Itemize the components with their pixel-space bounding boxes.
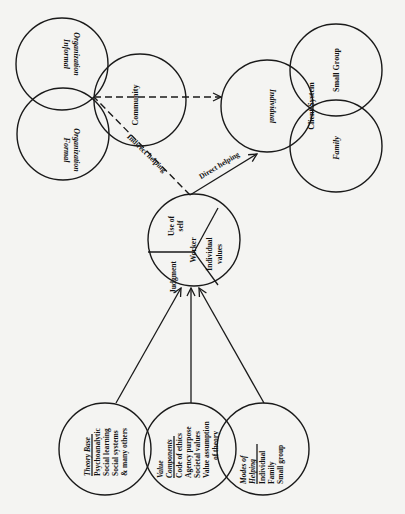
modes-item-1: Individual: [258, 451, 267, 484]
value-item-5: of theory: [211, 431, 220, 460]
individual-values-label-1: Individual: [205, 237, 214, 270]
organization-cluster: Informal Organization Formal Organizatio…: [16, 18, 186, 180]
value-item-2: Agency purpose: [184, 426, 193, 478]
family-label: Family: [332, 136, 341, 161]
modes-title-1: Modes of: [239, 454, 248, 485]
indirect-helping-label: Indirect helping: [125, 132, 168, 174]
formal-organization-circle: [17, 88, 109, 180]
community-circle: [94, 54, 186, 146]
community-label: Community: [131, 85, 140, 126]
value-item-3: Societal values: [193, 431, 202, 478]
modes-to-worker-arrow: [199, 288, 264, 403]
formal-label-1: Formal: [62, 137, 71, 164]
formal-label-2: Organization: [72, 128, 81, 172]
modes-item-3: Small group: [276, 445, 285, 484]
theory-item-2: Social learning: [102, 428, 111, 476]
theory-base-title: Theory Base: [83, 436, 92, 476]
informal-label-1: Informal: [62, 38, 71, 70]
client-cluster: Individual Small Group Family Client Sys…: [221, 24, 382, 192]
small-group-label: Small Group: [332, 47, 341, 92]
theory-item-4: & many others: [120, 428, 129, 476]
individual-circle: [221, 60, 313, 152]
informal-label-2: Organization: [72, 32, 81, 76]
modes-item-2: Family: [267, 461, 276, 484]
value-item-4: Value assumption: [202, 421, 211, 478]
theory-item-1: Psychoanalytic: [93, 427, 102, 476]
modes-title-2: Helping: [248, 459, 257, 485]
helping-process-diagram: Informal Organization Formal Organizatio…: [0, 0, 405, 514]
theory-item-3: Social systems: [111, 430, 120, 476]
value-title-2: Components: [165, 439, 174, 478]
direct-helping-label: Direct helping: [197, 150, 241, 181]
use-of-self-label-1: Use of: [167, 216, 176, 236]
worker-label: Worker: [189, 237, 198, 263]
theory-to-worker-arrow: [116, 288, 181, 403]
judgment-label: Judgment: [169, 260, 178, 293]
individual-values-label-2: values: [215, 244, 224, 264]
client-system-label: Client System: [307, 82, 316, 130]
input-circles: Theory Base Psychoanalytic Social learni…: [59, 403, 309, 495]
use-of-self-label-2: self: [176, 220, 185, 231]
value-title-1: Value: [156, 460, 165, 478]
individual-label: Individual: [268, 88, 277, 124]
worker-circle-group: Use of self Worker Individual values Jud…: [148, 194, 240, 293]
value-item-1: Code of ethics: [175, 433, 184, 478]
